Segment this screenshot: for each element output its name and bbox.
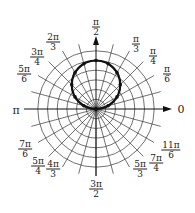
- curve-point: [82, 104, 86, 108]
- angle-label-denominator: 6: [17, 75, 31, 84]
- angle-label-denominator: 3: [46, 43, 60, 52]
- grid-spoke: [79, 44, 96, 109]
- angle-label-denominator: 6: [18, 150, 32, 159]
- angle-label-denominator: 3: [133, 170, 147, 179]
- angle-label-eleven-pi-over-6: 11π6: [161, 141, 180, 160]
- angle-label-four-pi-over-3: 4π3: [46, 160, 60, 179]
- angle-label-three-pi-over-2: 3π2: [89, 180, 103, 199]
- angle-label-two-pi-over-3: 2π3: [46, 33, 60, 52]
- curve-point: [115, 71, 119, 75]
- curve-point: [118, 83, 122, 87]
- grid-spoke: [79, 109, 96, 174]
- angle-label-pi-over-6: π6: [163, 65, 171, 84]
- angle-label-denominator: 4: [149, 164, 163, 173]
- angle-label-five-pi-over-3: 5π3: [133, 160, 147, 179]
- angle-label-zero: 0: [178, 103, 185, 116]
- arrow-up-icon: [93, 36, 99, 45]
- angle-label-denominator: 2: [92, 28, 100, 37]
- curve-point: [106, 104, 110, 108]
- angle-label-denominator: 3: [132, 45, 140, 54]
- angle-label-pi-over-4: π4: [149, 47, 157, 66]
- grid-spoke: [96, 109, 113, 174]
- angle-label-denominator: 4: [31, 167, 45, 176]
- curve-point: [82, 62, 86, 66]
- curve-point: [70, 83, 74, 87]
- angle-label-three-pi-over-4: 3π4: [30, 48, 44, 67]
- angle-label-denominator: 4: [149, 57, 157, 66]
- angle-label-denominator: 4: [30, 58, 44, 67]
- curve-point: [94, 59, 98, 63]
- angle-label-pi-over-3: π3: [132, 35, 140, 54]
- curve-point: [94, 107, 98, 111]
- grid-spoke: [96, 109, 161, 126]
- angle-label-denominator: 2: [89, 190, 103, 199]
- grid-spoke: [96, 44, 113, 109]
- curve-point: [115, 95, 119, 99]
- angle-label-five-pi-over-6: 5π6: [17, 65, 31, 84]
- angle-label-denominator: 6: [163, 75, 171, 84]
- angle-label-seven-pi-over-6: 7π6: [18, 140, 32, 159]
- angle-label-denominator: 6: [161, 151, 180, 160]
- arrow-right-icon: [163, 106, 172, 112]
- angle-label-five-pi-over-4: 5π4: [31, 157, 45, 176]
- curve-point: [73, 95, 77, 99]
- angle-label-pi-over-2: π2: [92, 18, 100, 37]
- grid-spoke: [49, 109, 96, 156]
- angle-label-denominator: 3: [46, 170, 60, 179]
- grid-spoke: [96, 109, 143, 156]
- angle-label-pi: π: [12, 104, 19, 117]
- grid-spoke: [31, 109, 96, 126]
- curve-point: [106, 62, 110, 66]
- curve-point: [73, 71, 77, 75]
